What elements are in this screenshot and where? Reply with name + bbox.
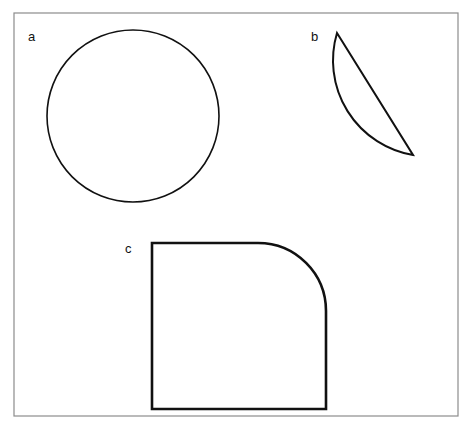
shape-label-b: b (311, 30, 318, 43)
shape-label-c: c (125, 242, 132, 255)
figure-background (0, 0, 473, 427)
figure-canvas (0, 0, 473, 427)
geometric-shapes-figure: a b c (0, 0, 473, 427)
shape-label-a: a (28, 30, 35, 43)
